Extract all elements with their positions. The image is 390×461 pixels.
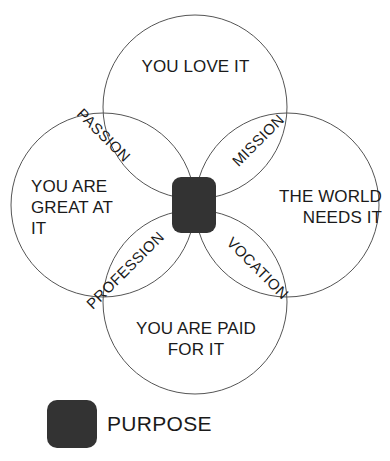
legend-swatch-purpose (47, 400, 97, 448)
circle-label-the-world-needs-it: THE WORLD NEEDS IT (274, 186, 382, 228)
legend-label-purpose: PURPOSE (107, 412, 212, 436)
center-purpose-shape (172, 177, 216, 233)
venn-diagram: YOU LOVE IT YOU ARE GREAT AT IT THE WORL… (0, 0, 390, 461)
legend: PURPOSE (47, 400, 212, 448)
circle-label-you-are-paid-for-it: YOU ARE PAID FOR IT (112, 318, 280, 360)
circle-label-you-are-great-at-it: YOU ARE GREAT AT IT (31, 176, 151, 239)
circle-you-love-it (103, 15, 287, 199)
circle-label-you-love-it: YOU LOVE IT (113, 56, 278, 77)
